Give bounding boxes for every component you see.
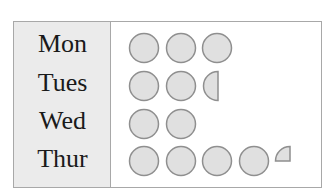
circle-icon [167,110,196,139]
quarter-circle-icon [276,147,291,162]
pictograph-icons-area [111,22,321,187]
pictograph-symbols [111,22,323,189]
circle-icon [130,34,159,63]
circle-icon [203,147,232,176]
circle-icon [167,72,196,101]
pictograph-frame: Mon Tues Wed Thur [13,21,322,188]
category-label-tues: Tues [14,68,111,98]
circle-icon [240,147,269,176]
circle-icon [203,34,232,63]
category-label-mon: Mon [14,29,111,59]
circle-icon [130,147,159,176]
circle-icon [167,34,196,63]
half-circle-icon [204,72,219,101]
category-label-thur: Thur [14,144,111,174]
category-label-wed: Wed [14,106,111,136]
circle-icon [167,147,196,176]
category-label-panel: Mon Tues Wed Thur [14,22,111,187]
circle-icon [130,110,159,139]
circle-icon [130,72,159,101]
